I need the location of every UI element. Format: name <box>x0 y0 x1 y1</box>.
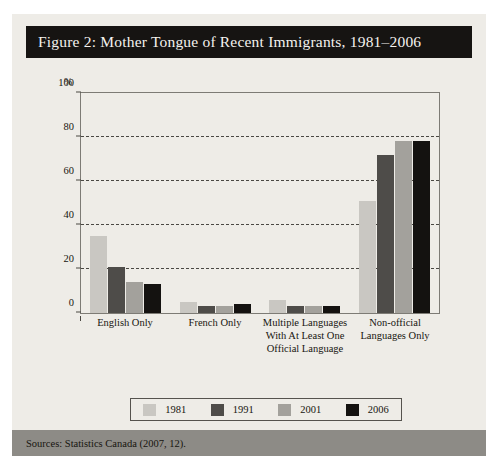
bar-1991 <box>108 267 125 313</box>
bar-group <box>350 93 440 313</box>
x-axis-label: English Only <box>80 316 170 355</box>
x-axis-label: French Only <box>170 316 260 355</box>
chart-legend: 1981199120012006 <box>130 398 402 421</box>
legend-label: 2001 <box>300 404 321 415</box>
x-axis-labels: English OnlyFrench OnlyMultiple Language… <box>80 316 440 355</box>
legend-label: 1991 <box>233 404 254 415</box>
bar-group <box>81 93 171 313</box>
bar-1981 <box>90 236 107 313</box>
legend-swatch <box>143 404 156 416</box>
bar-2001 <box>395 141 412 313</box>
y-tick-label: 0 <box>69 297 74 308</box>
legend-label: 1981 <box>165 404 186 415</box>
figure-card: Figure 2: Mother Tongue of Recent Immigr… <box>12 14 486 456</box>
legend-item-2006: 2006 <box>346 404 389 416</box>
y-tick-label: 20 <box>64 253 75 264</box>
legend-item-1991: 1991 <box>211 404 254 416</box>
bar-1981 <box>269 300 286 313</box>
bar-1981 <box>180 302 197 313</box>
plot-frame: 020406080100 <box>80 92 440 314</box>
bars-layer <box>81 93 439 313</box>
x-tick-mark <box>80 316 81 321</box>
legend-swatch <box>346 404 359 416</box>
bar-2006 <box>234 304 251 313</box>
legend-label: 2006 <box>368 404 389 415</box>
bar-2001 <box>305 306 322 313</box>
bar-1991 <box>198 306 215 313</box>
chart-area: % 020406080100 English OnlyFrench OnlyMu… <box>12 60 486 390</box>
bar-2006 <box>413 141 430 313</box>
bar-2006 <box>144 284 161 313</box>
figure-title-bar: Figure 2: Mother Tongue of Recent Immigr… <box>26 26 472 58</box>
y-tick-label: 60 <box>64 165 75 176</box>
bar-2001 <box>126 282 143 313</box>
bar-2006 <box>323 306 340 313</box>
bar-1991 <box>377 155 394 313</box>
source-text: Sources: Statistics Canada (2007, 12). <box>12 438 186 449</box>
legend-item-2001: 2001 <box>278 404 321 416</box>
legend-swatch <box>278 404 291 416</box>
x-axis-label: Multiple LanguagesWith At Least OneOffic… <box>260 316 350 355</box>
y-tick-label: 40 <box>64 209 75 220</box>
y-tick-label: 100 <box>58 77 74 88</box>
x-axis-label: Non-officialLanguages Only <box>350 316 440 355</box>
legend-item-1981: 1981 <box>143 404 186 416</box>
y-tick-label: 80 <box>64 121 75 132</box>
bar-group <box>171 93 261 313</box>
bar-group <box>260 93 350 313</box>
bar-1991 <box>287 306 304 313</box>
bar-2001 <box>216 306 233 313</box>
bar-1981 <box>359 201 376 313</box>
source-band: Sources: Statistics Canada (2007, 12). <box>12 430 486 456</box>
figure-title: Figure 2: Mother Tongue of Recent Immigr… <box>26 33 421 51</box>
legend-swatch <box>211 404 224 416</box>
